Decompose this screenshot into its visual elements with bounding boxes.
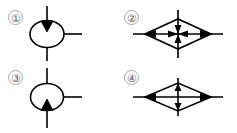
arrowhead-centre-top	[175, 25, 182, 34]
symbol-graphic-diamond-converging	[119, 0, 237, 67]
symbol-figure: ① ②	[0, 0, 237, 133]
symbol-cell-4: ④	[119, 66, 237, 133]
symbol-cell-1: ①	[0, 0, 119, 67]
symbol-graphic-diamond-vertical	[119, 66, 237, 133]
arrowhead-up	[41, 99, 53, 111]
arrowhead-centre-bottom	[175, 34, 182, 43]
symbol-cell-2: ②	[119, 0, 237, 67]
symbol-graphic-circle-up	[0, 66, 119, 133]
symbol-graphic-circle-down	[0, 0, 119, 67]
arrowhead-centre-left	[168, 31, 178, 38]
arrowhead-centre-right	[178, 31, 188, 38]
symbol-cell-3: ③	[0, 66, 119, 133]
arrowhead-down	[41, 21, 53, 32]
